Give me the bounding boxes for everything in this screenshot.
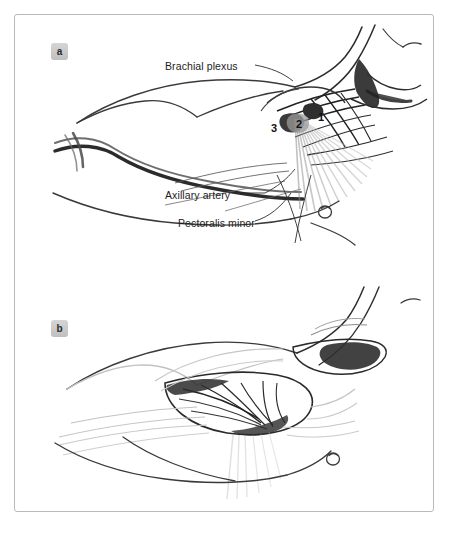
part-number-1: 1 (318, 111, 324, 123)
figure-frame: a Brachial plexus Axillary artery Pector… (14, 14, 434, 512)
label-pectoralis-minor: Pectoralis minor (178, 217, 255, 229)
label-axillary-artery: Axillary artery (165, 189, 230, 201)
axilla-shadow-lower (231, 415, 288, 436)
nipple-detail-b (329, 454, 338, 456)
arm-top-contour (77, 80, 295, 123)
label-brachial-plexus: Brachial plexus (165, 60, 238, 72)
torso-lower-contour-b2 (287, 451, 331, 475)
panel-a-illustration (15, 15, 434, 277)
pectoralis-minor-fan (295, 119, 373, 211)
arm-inner-contour (197, 91, 283, 117)
pectoralis-minor-fan-b (227, 432, 281, 499)
skin-flap-right-2 (307, 403, 357, 419)
neck-shadow-wedge (354, 59, 379, 108)
part-number-2: 2 (296, 118, 302, 130)
panel-b: b (15, 277, 433, 512)
chin-contour (403, 43, 421, 47)
part-number-3: 3 (271, 122, 277, 134)
chin-contour-b (401, 299, 420, 303)
panel-badge-a: a (51, 43, 68, 60)
panel-b-illustration (15, 277, 434, 512)
leader-brachial-plexus (255, 65, 293, 81)
panel-a: a Brachial plexus Axillary artery Pector… (15, 15, 433, 277)
skin-flap-upper (155, 349, 283, 381)
nerve-strand-2 (181, 171, 289, 191)
clavicle-arc (261, 89, 299, 111)
panel-badge-b: b (51, 320, 68, 337)
supraclavicular-incision-dark (320, 342, 381, 369)
skin-flap-right (311, 389, 355, 407)
leader-crossing-2 (295, 175, 311, 243)
neck-front-contour (295, 27, 362, 87)
chest-side-contour (311, 223, 355, 245)
jaw-contour (383, 29, 403, 47)
